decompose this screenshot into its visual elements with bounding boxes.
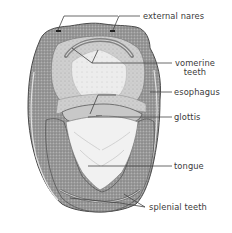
label-glottis: glottis xyxy=(174,113,200,122)
label-external-nares: external nares xyxy=(143,12,204,21)
right-naris xyxy=(110,30,115,32)
label-esophagus: esophagus xyxy=(174,88,220,97)
label-vomerine-teeth-line2: teeth xyxy=(174,68,216,77)
anatomy-figure: external nares vomerine teeth esophagus … xyxy=(0,0,232,233)
label-tongue: tongue xyxy=(174,162,204,171)
left-naris xyxy=(56,30,61,32)
label-splenial-teeth: splenial teeth xyxy=(149,203,207,212)
